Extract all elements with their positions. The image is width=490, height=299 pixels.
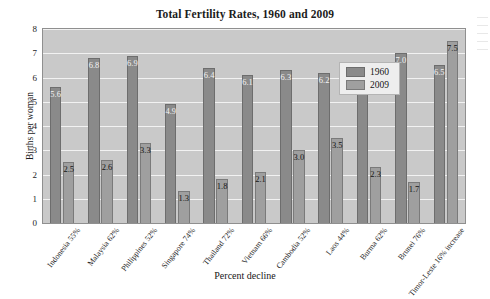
bar-value-label: 2.3 (370, 170, 381, 179)
bar-group: 6.12.1 (235, 29, 273, 223)
x-label-country: Thailand (201, 238, 227, 268)
legend: 1960 2009 (339, 62, 400, 95)
legend-label-1960: 1960 (370, 67, 389, 77)
bar-brunei-2009[interactable]: 1.7 (408, 182, 420, 223)
page-edge-artifact (474, 10, 488, 80)
bar-group: 6.57.5 (427, 29, 465, 223)
bar-value-label: 2.6 (102, 163, 113, 172)
bar-singapore-1960[interactable]: 4.9 (165, 104, 177, 223)
bar-vietnam-1960[interactable]: 6.1 (242, 75, 254, 223)
bar-value-label: 2.1 (255, 175, 266, 184)
bar-timor-leste-2009[interactable]: 7.5 (447, 41, 459, 223)
bar-indonesia-2009[interactable]: 2.5 (63, 162, 75, 223)
bar-value-label: 6.3 (281, 73, 292, 82)
chart-title: Total Fertility Rates, 1960 and 2009 (0, 8, 490, 20)
bar-value-label: 6.5 (434, 68, 445, 77)
y-tick-5: 5 (33, 97, 38, 107)
x-label-burma: Burma 62% (358, 226, 389, 262)
x-axis-tick-labels: Indonesia 55%Malaysia 62%Philippines 52%… (42, 226, 466, 296)
y-tick-4: 4 (33, 121, 38, 131)
legend-item-2009: 2009 (346, 80, 389, 90)
bar-value-label: 4.9 (165, 107, 176, 116)
x-label-indonesia: Indonesia 55% (46, 226, 83, 269)
x-label-country: Vietnam (240, 238, 265, 266)
x-label-malaysia: Malaysia 62% (85, 226, 120, 268)
bar-value-label: 1.7 (409, 185, 420, 194)
bar-group: 6.33.0 (273, 29, 311, 223)
bar-laos-1960[interactable]: 6.2 (318, 73, 330, 223)
x-label-brunei: Brunei 76% (397, 226, 428, 262)
bar-value-label: 2.5 (63, 165, 74, 174)
y-tick-7: 7 (33, 48, 38, 58)
legend-swatch-1960-icon (346, 67, 365, 77)
bar-philippines-1960[interactable]: 6.9 (127, 56, 139, 223)
bar-group: 4.91.3 (158, 29, 196, 223)
x-label-vietnam: Vietnam 66% (240, 226, 274, 266)
y-tick-0: 0 (33, 218, 38, 228)
legend-label-2009: 2009 (370, 80, 389, 90)
y-tick-6: 6 (33, 73, 38, 83)
bar-malaysia-1960[interactable]: 6.8 (88, 58, 100, 223)
bar-group: 6.82.6 (81, 29, 119, 223)
bar-value-label: 7.5 (447, 44, 458, 53)
x-label-country: Philippines (119, 238, 149, 273)
bar-thailand-1960[interactable]: 6.4 (203, 68, 215, 223)
y-axis-ticks: 012345678 (0, 28, 42, 224)
bar-burma-1960[interactable]: 6.0 (357, 78, 369, 224)
bar-vietnam-2009[interactable]: 2.1 (255, 172, 267, 223)
x-label-percent: 76% (411, 226, 427, 243)
bar-malaysia-2009[interactable]: 2.6 (101, 160, 113, 223)
bar-cambodia-1960[interactable]: 6.3 (280, 70, 292, 223)
x-label-thailand: Thailand 72% (201, 226, 236, 267)
x-label-percent: 16% increase (432, 226, 465, 265)
bars-layer: 5.62.56.82.66.93.34.91.36.41.86.12.16.33… (43, 29, 465, 223)
bar-timor-leste-1960[interactable]: 6.5 (434, 65, 446, 223)
legend-item-1960: 1960 (346, 67, 389, 77)
bar-value-label: 5.6 (50, 90, 61, 99)
x-label-country: Cambodia (275, 238, 304, 271)
x-label-philippines: Philippines 52% (119, 226, 159, 273)
bar-value-label: 3.3 (140, 146, 151, 155)
bar-group: 7.01.7 (388, 29, 426, 223)
bar-philippines-2009[interactable]: 3.3 (140, 143, 152, 223)
y-tick-8: 8 (33, 24, 38, 34)
bar-group: 6.93.3 (120, 29, 158, 223)
x-label-laos: Laos 44% (324, 226, 351, 257)
y-tick-1: 1 (33, 194, 38, 204)
x-axis-title: Percent decline (0, 270, 490, 281)
bar-group: 5.62.5 (43, 29, 81, 223)
x-label-percent: 74% (181, 226, 197, 243)
bar-value-label: 1.8 (217, 182, 228, 191)
bar-value-label: 6.9 (127, 59, 138, 68)
fertility-rates-figure: Total Fertility Rates, 1960 and 2009 Bir… (0, 0, 490, 299)
x-label-country: Singapore (160, 238, 188, 271)
bar-value-label: 6.1 (242, 78, 253, 87)
bar-cambodia-2009[interactable]: 3.0 (293, 150, 305, 223)
bar-thailand-2009[interactable]: 1.8 (216, 179, 228, 223)
y-tick-2: 2 (33, 170, 38, 180)
bar-value-label: 3.5 (332, 141, 343, 150)
legend-swatch-2009-icon (346, 80, 365, 90)
bar-value-label: 6.8 (89, 61, 100, 70)
bar-burma-2009[interactable]: 2.3 (370, 167, 382, 223)
bar-value-label: 6.4 (204, 71, 215, 80)
bar-singapore-2009[interactable]: 1.3 (178, 191, 190, 223)
plot-area: 5.62.56.82.66.93.34.91.36.41.86.12.16.33… (42, 28, 466, 224)
x-label-country: Malaysia (85, 238, 111, 268)
bar-indonesia-1960[interactable]: 5.6 (50, 87, 62, 223)
x-label-cambodia: Cambodia 52% (275, 226, 313, 271)
y-tick-3: 3 (33, 145, 38, 155)
bar-value-label: 3.0 (294, 153, 305, 162)
bar-value-label: 6.2 (319, 76, 330, 85)
bar-group: 6.41.8 (196, 29, 234, 223)
x-label-singapore: Singapore 74% (160, 226, 197, 270)
bar-value-label: 1.3 (178, 194, 189, 203)
bar-group: 6.23.5 (312, 29, 350, 223)
bar-laos-2009[interactable]: 3.5 (331, 138, 343, 223)
x-label-country: Indonesia (46, 238, 73, 270)
bar-group: 6.02.3 (350, 29, 388, 223)
